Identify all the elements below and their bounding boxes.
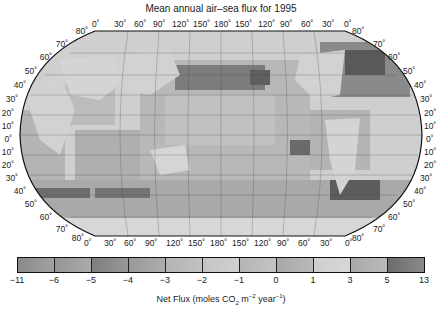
svg-text:50˚: 50˚ (25, 199, 37, 209)
svg-text:80˚: 80˚ (352, 26, 364, 36)
colorbar-segment (129, 258, 166, 272)
colorbar-segment (166, 258, 203, 272)
svg-text:20˚: 20˚ (424, 160, 436, 170)
svg-text:30˚: 30˚ (420, 94, 432, 104)
colorbar-segment (240, 258, 277, 272)
colorbar-segment (314, 258, 351, 272)
colorbar (17, 257, 425, 273)
svg-text:0˚: 0˚ (4, 134, 12, 144)
svg-text:10˚: 10˚ (2, 147, 14, 157)
colorbar-tick: 3 (347, 275, 352, 285)
svg-text:80˚: 80˚ (72, 233, 84, 243)
svg-text:60˚: 60˚ (388, 52, 400, 62)
colorbar-tick: 5 (384, 275, 389, 285)
bottom-longitude-labels: 0˚ 30˚ 60˚ 90˚ 120˚ 150˚ 180˚ 150˚ 120˚ … (84, 238, 353, 248)
svg-text:30˚: 30˚ (104, 238, 116, 248)
colorbar-segment (55, 258, 92, 272)
svg-text:50˚: 50˚ (25, 66, 37, 76)
colorbar-ticks: −11 −6 −5 −4 −3 −2 −1 0 1 3 5 13 (0, 275, 442, 287)
colorbar-tick: −6 (49, 275, 59, 285)
svg-text:70˚: 70˚ (56, 224, 68, 234)
colorbar-tick: −5 (86, 275, 96, 285)
svg-text:120˚: 120˚ (172, 19, 189, 29)
svg-text:10˚: 10˚ (424, 121, 436, 131)
colorbar-tick: 13 (419, 275, 429, 285)
svg-text:30˚: 30˚ (114, 19, 126, 29)
svg-text:60˚: 60˚ (388, 212, 400, 222)
colorbar-tick: 0 (273, 275, 278, 285)
svg-text:40˚: 40˚ (14, 186, 26, 196)
svg-text:90˚: 90˚ (277, 238, 289, 248)
svg-text:90˚: 90˚ (280, 19, 292, 29)
colorbar-tick: 1 (310, 275, 315, 285)
svg-text:40˚: 40˚ (14, 80, 26, 90)
svg-text:50˚: 50˚ (403, 66, 415, 76)
svg-text:150˚: 150˚ (188, 238, 205, 248)
svg-text:0˚: 0˚ (344, 19, 352, 29)
svg-text:70˚: 70˚ (373, 39, 385, 49)
svg-text:40˚: 40˚ (414, 186, 426, 196)
colorbar-segment (92, 258, 129, 272)
svg-text:60˚: 60˚ (134, 19, 146, 29)
svg-text:0˚: 0˚ (92, 19, 100, 29)
svg-text:150˚: 150˚ (232, 238, 249, 248)
svg-text:90˚: 90˚ (153, 19, 165, 29)
svg-text:60˚: 60˚ (301, 19, 313, 29)
svg-text:60˚: 60˚ (298, 238, 310, 248)
svg-text:60˚: 60˚ (40, 212, 52, 222)
colorbar-label: Net Flux (moles CO2 m−2 year−1) (0, 293, 442, 306)
svg-text:0˚: 0˚ (426, 134, 434, 144)
svg-text:70˚: 70˚ (373, 224, 385, 234)
svg-text:50˚: 50˚ (403, 199, 415, 209)
svg-text:80˚: 80˚ (76, 26, 88, 36)
svg-text:20˚: 20˚ (2, 160, 14, 170)
colorbar-tick: −2 (197, 275, 207, 285)
svg-text:90˚: 90˚ (145, 238, 157, 248)
colorbar-segment (351, 258, 388, 272)
svg-text:120˚: 120˚ (166, 238, 183, 248)
svg-text:120˚: 120˚ (258, 19, 275, 29)
svg-text:30˚: 30˚ (322, 19, 334, 29)
colorbar-segment (203, 258, 240, 272)
svg-text:10˚: 10˚ (424, 147, 436, 157)
svg-text:180˚: 180˚ (210, 238, 227, 248)
svg-text:150˚: 150˚ (235, 19, 252, 29)
colorbar-segment (388, 258, 424, 272)
svg-text:10˚: 10˚ (2, 121, 14, 131)
colorbar-segment (277, 258, 314, 272)
colorbar-tick: −1 (234, 275, 244, 285)
colorbar-segment (18, 258, 55, 272)
colorbar-tick: −3 (160, 275, 170, 285)
flux-map: 0˚ 30˚ 60˚ 90˚ 120˚ 150˚ 180˚ 150˚ 120˚ … (0, 0, 442, 250)
svg-text:20˚: 20˚ (2, 108, 14, 118)
svg-text:60˚: 60˚ (40, 52, 52, 62)
colorbar-tick: −4 (123, 275, 133, 285)
svg-text:20˚: 20˚ (424, 108, 436, 118)
svg-text:150˚: 150˚ (193, 19, 210, 29)
svg-text:60˚: 60˚ (124, 238, 136, 248)
svg-text:70˚: 70˚ (56, 39, 68, 49)
top-longitude-labels: 0˚ 30˚ 60˚ 90˚ 120˚ 150˚ 180˚ 150˚ 120˚ … (92, 19, 352, 29)
svg-text:30˚: 30˚ (6, 94, 18, 104)
svg-text:180˚: 180˚ (214, 19, 231, 29)
svg-text:30˚: 30˚ (420, 173, 432, 183)
svg-text:120˚: 120˚ (254, 238, 271, 248)
svg-text:30˚: 30˚ (320, 238, 332, 248)
svg-text:40˚: 40˚ (414, 80, 426, 90)
svg-text:80˚: 80˚ (352, 233, 364, 243)
colorbar-tick: −11 (10, 275, 25, 285)
svg-text:0˚: 0˚ (84, 238, 92, 248)
svg-text:30˚: 30˚ (6, 173, 18, 183)
